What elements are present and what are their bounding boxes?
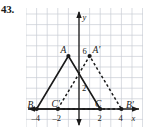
y-axis-label: y [82,12,87,22]
point-A-prime [88,54,92,58]
y-tick-label-6: 6 [83,46,87,56]
point-label-C: C [95,99,102,109]
x-tick-label-minus-4: –4 [31,113,41,123]
point-A [66,54,70,58]
figure-container: 43. [0,0,144,131]
point-label-A-prime: A′ [92,45,102,55]
point-B [35,107,39,111]
point-B-prime [119,107,123,111]
point-label-B-prime: B′ [126,100,135,110]
y-tick-label-2: 2 [82,83,86,93]
point-label-C-prime: C′ [52,99,61,109]
x-axis-label: x [131,113,136,123]
coordinate-plane-svg: A B C A′ B′ C′ 6 2 –4 –2 2 4 y x [26,8,143,127]
coordinate-plane: A B C A′ B′ C′ 6 2 –4 –2 2 4 y x [26,8,143,127]
point-label-A: A [60,45,67,55]
x-tick-label-2: 2 [98,113,102,123]
problem-number: 43. [1,3,14,15]
x-tick-label-minus-2: –2 [52,113,62,123]
point-label-B: B [28,100,34,110]
